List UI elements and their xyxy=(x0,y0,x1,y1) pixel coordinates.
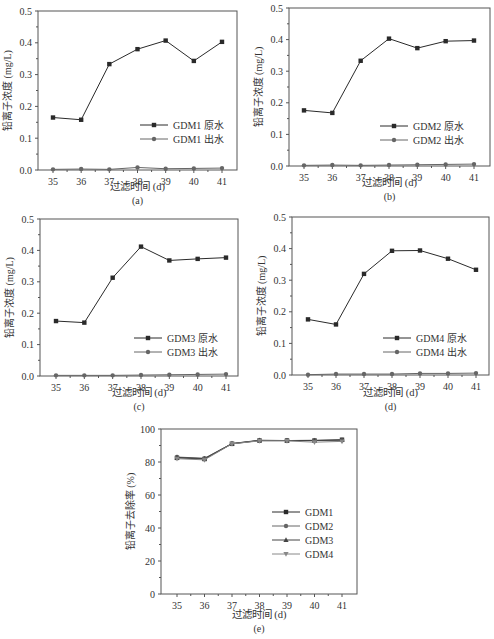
panel-label: (a) xyxy=(132,195,143,207)
chart-panel-e: 02040608010035363738394041过滤时间 (d)铅离子去除率… xyxy=(124,424,357,636)
y-axis-title: 铅离子浓度 (mg/L) xyxy=(252,47,265,128)
y-tick-label: 0.4 xyxy=(20,37,33,48)
y-tick-label: 0.0 xyxy=(20,165,33,176)
y-axis-title: 铅离子浓度 (mg/L) xyxy=(255,256,268,337)
y-tick-label: 0.0 xyxy=(271,161,284,172)
panel-label: (b) xyxy=(384,191,396,203)
y-tick-label: 20 xyxy=(145,556,155,567)
y-tick-label: 0.1 xyxy=(20,133,33,144)
y-tick-label: 0.4 xyxy=(22,245,35,256)
y-tick-label: 0.2 xyxy=(22,308,35,319)
series-line xyxy=(56,247,226,323)
legend-label: GDM4 出水 xyxy=(416,346,467,358)
y-tick-label: 80 xyxy=(145,457,155,468)
x-tick-label: 35 xyxy=(172,600,182,611)
x-tick-label: 40 xyxy=(441,172,451,183)
legend-label: GDM1 出水 xyxy=(173,133,224,145)
legend-label: GDM3 出水 xyxy=(167,346,218,358)
y-tick-label: 0.4 xyxy=(271,34,284,45)
y-tick-label: 0.5 xyxy=(274,212,287,223)
x-axis-title: 过滤时间 (d) xyxy=(232,608,287,621)
series-line xyxy=(308,250,476,324)
y-tick-label: 60 xyxy=(145,490,155,501)
y-tick-label: 0.5 xyxy=(20,6,33,17)
y-axis-title: 铅离子浓度 (mg/L) xyxy=(3,257,16,338)
y-tick-label: 0.3 xyxy=(274,275,287,286)
series-line xyxy=(177,441,342,460)
legend-label: GDM1 xyxy=(305,507,333,518)
x-axis-title: 过滤时间 (d) xyxy=(110,180,165,193)
y-tick-label: 40 xyxy=(145,523,155,534)
legend-label: GDM3 xyxy=(305,535,333,546)
plot-frame xyxy=(38,11,237,170)
legend-label: GDM4 xyxy=(305,549,333,560)
y-tick-label: 0.0 xyxy=(274,370,287,381)
y-tick-label: 0.2 xyxy=(274,306,287,317)
x-axis-title: 过滤时间 (d) xyxy=(363,386,418,399)
x-tick-label: 41 xyxy=(217,176,227,187)
series-line xyxy=(304,39,474,113)
x-tick-label: 36 xyxy=(79,382,89,393)
y-tick-label: 0.2 xyxy=(20,101,33,112)
y-tick-label: 0.3 xyxy=(20,69,33,80)
x-tick-label: 41 xyxy=(337,600,347,611)
y-axis-title: 铅离子浓度 (mg/L) xyxy=(1,50,14,131)
x-tick-label: 36 xyxy=(76,176,86,187)
x-tick-label: 36 xyxy=(331,381,341,392)
legend-label: GDM1 原水 xyxy=(173,120,224,131)
panel-label: (c) xyxy=(133,401,144,413)
y-tick-label: 0 xyxy=(150,589,155,600)
panel-label: (e) xyxy=(253,623,264,635)
x-tick-label: 40 xyxy=(189,176,199,187)
x-tick-label: 40 xyxy=(193,382,203,393)
x-tick-label: 36 xyxy=(200,600,210,611)
y-tick-label: 0.1 xyxy=(22,339,35,350)
y-tick-label: 0.0 xyxy=(22,371,35,382)
x-axis-title: 过滤时间 (d) xyxy=(112,386,167,399)
y-tick-label: 0.1 xyxy=(274,338,287,349)
chart-panel-c: 0.00.10.20.30.40.535363738394041过滤时间 (d)… xyxy=(3,214,238,414)
x-tick-label: 41 xyxy=(471,381,481,392)
legend-label: GDM3 原水 xyxy=(167,333,218,344)
legend-label: GDM2 xyxy=(305,521,333,532)
y-tick-label: 100 xyxy=(140,424,155,435)
x-tick-label: 35 xyxy=(51,382,61,393)
panel-label: (d) xyxy=(385,401,397,413)
x-axis-title: 过滤时间 (d) xyxy=(362,176,417,189)
y-tick-label: 0.5 xyxy=(22,214,35,225)
x-tick-label: 35 xyxy=(299,172,309,183)
chart-panel-a: 0.00.10.20.30.40.535363738394041过滤时间 (d)… xyxy=(1,6,237,208)
x-tick-label: 41 xyxy=(221,382,231,393)
legend-label: GDM2 原水 xyxy=(413,121,464,132)
series-line xyxy=(53,41,222,120)
y-tick-label: 0.2 xyxy=(271,97,284,108)
y-tick-label: 0.3 xyxy=(271,66,284,77)
y-tick-label: 0.5 xyxy=(271,3,284,14)
legend-label: GDM4 原水 xyxy=(416,333,467,344)
y-tick-label: 0.3 xyxy=(22,276,35,287)
chart-panel-d: 0.00.10.20.30.40.535363738394041过滤时间 (d)… xyxy=(255,212,489,414)
x-tick-label: 35 xyxy=(303,381,313,392)
legend-label: GDM2 出水 xyxy=(413,134,464,146)
x-tick-label: 35 xyxy=(48,176,58,187)
x-tick-label: 40 xyxy=(443,381,453,392)
chart-panel-b: 0.00.10.20.30.40.535363738394041过滤时间 (d)… xyxy=(252,3,490,204)
x-tick-label: 40 xyxy=(310,600,320,611)
x-tick-label: 41 xyxy=(469,172,479,183)
figure: 0.00.10.20.30.40.535363738394041过滤时间 (d)… xyxy=(0,0,494,639)
y-tick-label: 0.1 xyxy=(271,129,284,140)
x-tick-label: 36 xyxy=(327,172,337,183)
y-tick-label: 0.4 xyxy=(274,243,287,254)
y-axis-title: 铅离子去除率 (%) xyxy=(124,473,137,551)
